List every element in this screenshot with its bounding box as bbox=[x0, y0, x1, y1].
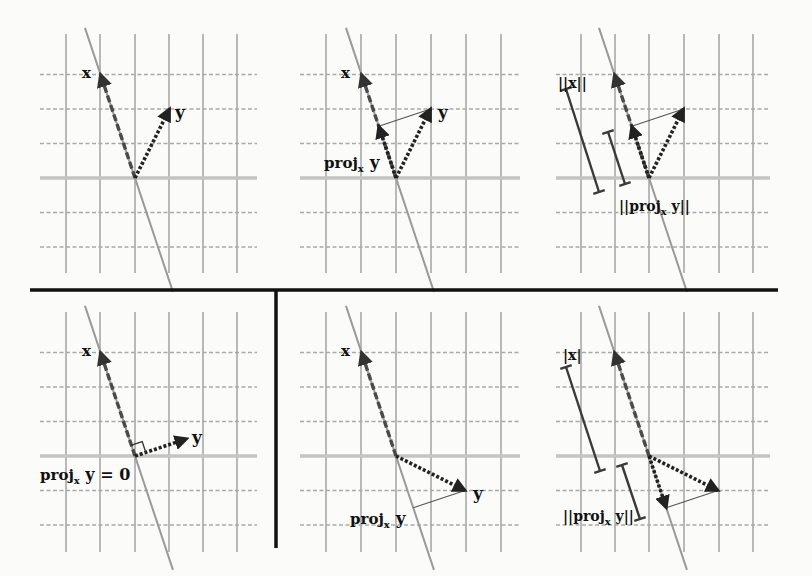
vector-x-arrow bbox=[101, 75, 136, 179]
label-y: y bbox=[472, 483, 484, 503]
label-norm-proj: ||projx y|| bbox=[563, 508, 634, 527]
label-x: x bbox=[341, 342, 351, 360]
panel-grid-bottom-left bbox=[40, 306, 257, 570]
vector-x-arrow bbox=[101, 353, 136, 457]
projection-connector bbox=[413, 491, 465, 508]
span-line-of-x bbox=[85, 306, 173, 570]
measure-bar-line bbox=[608, 132, 625, 184]
label-x: x bbox=[82, 342, 92, 360]
panel-top-right-labels: ||x|| ||projx y|| bbox=[558, 75, 690, 217]
label-y: y bbox=[191, 427, 203, 447]
panel-grid-top-left bbox=[40, 28, 257, 292]
label-y: y bbox=[174, 102, 186, 122]
panel-vectors-bottom-center bbox=[362, 353, 466, 508]
vector-layer bbox=[101, 75, 719, 521]
projection-connector bbox=[666, 491, 718, 508]
panel-vectors-bottom-right bbox=[615, 353, 719, 508]
span-line-of-x bbox=[599, 306, 687, 570]
label-y: y bbox=[437, 102, 449, 122]
panel-vectors-bottom-left bbox=[101, 353, 187, 457]
span-line-of-x bbox=[85, 28, 173, 292]
span-line-of-x bbox=[599, 28, 687, 292]
label-norm-proj: ||projx y|| bbox=[619, 198, 690, 217]
span-line-of-x bbox=[346, 28, 434, 292]
span-line-of-x bbox=[346, 306, 434, 570]
label-norm-x: ||x|| bbox=[558, 75, 587, 92]
label-proj-zero: projx y = 0 bbox=[40, 465, 130, 486]
label-norm-x: |x| bbox=[563, 347, 582, 364]
label-proj: projx y bbox=[324, 152, 381, 174]
label-x: x bbox=[341, 64, 351, 82]
label-proj: projx y bbox=[350, 508, 407, 530]
label-x: x bbox=[82, 64, 92, 82]
panel-bottom-center-labels: x y projx y bbox=[341, 342, 484, 530]
projection-diagram: x y x y projx y ||x|| ||projx y|| x y pr… bbox=[0, 0, 812, 576]
panel-grid-bottom-center bbox=[300, 306, 520, 570]
vector-x-arrow bbox=[362, 353, 397, 457]
vector-x-arrow bbox=[615, 353, 650, 457]
panel-top-left-labels: x y bbox=[82, 64, 186, 122]
grid-layer bbox=[40, 28, 770, 570]
